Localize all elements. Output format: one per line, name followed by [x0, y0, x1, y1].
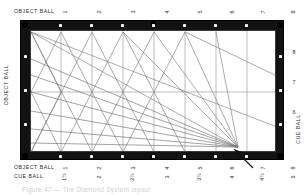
top-scale-tick-4: 4 [160, 6, 172, 18]
top-scale-tick-1: 1 [58, 6, 70, 18]
right-scale-tick-7: 7 [286, 76, 302, 88]
bottom-cue-ball-label: CUE BALL [14, 173, 43, 179]
bottom-ob-tick-6: 6 [224, 163, 238, 172]
right-scale-label-wrap: CUE BALL [278, 124, 308, 134]
top-scale-label: OBJECT BALL [14, 8, 55, 14]
bottom-cb-tick-4: 3 [159, 172, 173, 181]
right-scale-label: CUE BALL [295, 114, 301, 143]
top-scale-tick-5: 5 [193, 6, 205, 18]
bottom-cb-tick-7: 4½ [255, 172, 269, 181]
bottom-cb-tick-5: 3½ [192, 172, 206, 181]
right-scale: 8 7 6 CUE BALL [286, 20, 308, 160]
right-scale-tick-8: 8 [286, 46, 302, 58]
bottom-ob-tick-8: 8 [285, 163, 299, 172]
bottom-cb-tick-6: 4 [224, 172, 238, 181]
bottom-ob-tick-3: 3 [125, 163, 139, 172]
left-scale-label: OBJECT BALL [3, 65, 9, 106]
bottom-ob-tick-7: 7 [255, 163, 269, 172]
bottom-ob-tick-5: 5 [192, 163, 206, 172]
bottom-scales: OBJECT BALL CUE BALL 1 2 3 4 5 6 7 8 1½ … [0, 163, 308, 185]
bottom-ob-tick-2: 2 [91, 163, 105, 172]
top-scale-tick-2: 2 [92, 6, 104, 18]
bottom-cb-tick-3: 2½ [125, 172, 139, 181]
figure-root: OBJECT BALL 1 2 3 4 5 6 7 8 OBJECT BALL [0, 0, 308, 195]
top-scale-tick-7: 7 [256, 6, 268, 18]
bottom-cb-tick-1: 1½ [57, 172, 71, 181]
bottom-cb-tick-2: 2 [91, 172, 105, 181]
bottom-ob-tick-1: 1 [57, 163, 71, 172]
top-scale-tick-8: 8 [286, 6, 298, 18]
bottom-ob-tick-4: 4 [159, 163, 173, 172]
figure-caption: Figure 47 — The Diamond System layout [22, 186, 292, 195]
top-scale: OBJECT BALL 1 2 3 4 5 6 7 8 [0, 6, 308, 19]
top-scale-tick-3: 3 [126, 6, 138, 18]
top-scale-tick-6: 6 [225, 6, 237, 18]
pointer-arrow-icon [21, 21, 285, 161]
bottom-cb-tick-8: 5 [285, 172, 299, 181]
pool-table [20, 20, 284, 160]
bottom-object-ball-label: OBJECT BALL [14, 164, 55, 170]
left-scale: OBJECT BALL [0, 20, 20, 160]
